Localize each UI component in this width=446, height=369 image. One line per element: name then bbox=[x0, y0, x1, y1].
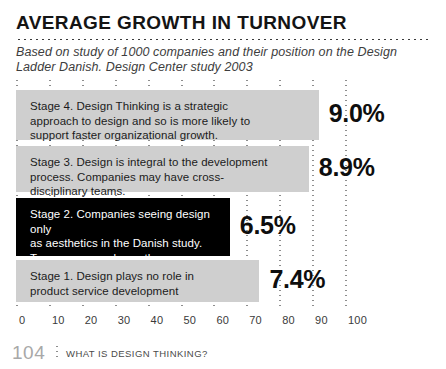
title-divider bbox=[16, 37, 432, 40]
page-number: 104 bbox=[12, 342, 45, 364]
chart-plot-area: Stage 4. Design Thinking is a strategic … bbox=[0, 78, 446, 310]
axis-tick-100: 100 bbox=[348, 314, 367, 326]
bar-row: Stage 3. Design is integral to the devel… bbox=[0, 146, 446, 192]
axis-tick-90: 90 bbox=[315, 314, 328, 326]
chart-page: AVERAGE GROWTH IN TURNOVER Based on stud… bbox=[0, 0, 446, 369]
axis-tick-70: 70 bbox=[249, 314, 262, 326]
bar-stage-3[interactable]: Stage 3. Design is integral to the devel… bbox=[16, 146, 309, 192]
axis-tick-50: 50 bbox=[184, 314, 197, 326]
bar-label-stage-4: Stage 4. Design Thinking is a strategic … bbox=[30, 99, 307, 143]
chart-bars: Stage 4. Design Thinking is a strategic … bbox=[0, 78, 446, 310]
bar-value-stage-4: 9.0% bbox=[329, 99, 385, 128]
bar-row: Stage 4. Design Thinking is a strategic … bbox=[0, 90, 446, 140]
chart-subtitle: Based on study of 1000 companies and the… bbox=[16, 45, 416, 75]
axis-tick-30: 30 bbox=[118, 314, 131, 326]
page-footer: 104 WHAT IS DESIGN THINKING? bbox=[0, 340, 446, 369]
axis-tick-40: 40 bbox=[151, 314, 164, 326]
footer-separator-icon bbox=[56, 344, 58, 359]
chart-header: AVERAGE GROWTH IN TURNOVER Based on stud… bbox=[16, 12, 432, 75]
axis-tick-80: 80 bbox=[282, 314, 295, 326]
footer-section-label: WHAT IS DESIGN THINKING? bbox=[66, 348, 208, 359]
bar-row: Stage 2. Companies seeing design only as… bbox=[0, 198, 446, 256]
bar-label-stage-3: Stage 3. Design is integral to the devel… bbox=[30, 155, 297, 199]
bar-stage-2[interactable]: Stage 2. Companies seeing design only as… bbox=[16, 198, 230, 256]
bar-stage-1[interactable]: Stage 1. Design plays no role in product… bbox=[16, 260, 259, 302]
axis-tick-60: 60 bbox=[216, 314, 229, 326]
axis-tick-10: 10 bbox=[52, 314, 65, 326]
bar-value-stage-2: 6.5% bbox=[240, 211, 296, 240]
bar-row: Stage 1. Design plays no role in product… bbox=[0, 260, 446, 302]
page-title: AVERAGE GROWTH IN TURNOVER bbox=[16, 12, 432, 33]
axis-tick-20: 20 bbox=[85, 314, 98, 326]
bar-stage-4[interactable]: Stage 4. Design Thinking is a strategic … bbox=[16, 90, 319, 140]
bar-label-stage-1: Stage 1. Design plays no role in product… bbox=[30, 269, 247, 298]
chart-x-axis: 0102030405060708090100 bbox=[0, 312, 446, 332]
bar-value-stage-3: 8.9% bbox=[319, 153, 375, 182]
footer-divider-rule bbox=[16, 338, 432, 340]
bar-value-stage-1: 7.4% bbox=[269, 265, 325, 294]
axis-tick-0: 0 bbox=[19, 314, 25, 326]
